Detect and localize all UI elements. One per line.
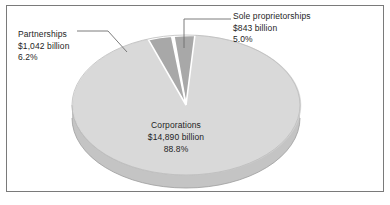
callout-partnerships: Partnerships $1,042 billion 6.2% xyxy=(18,29,70,64)
callout-corporations-percent: 88.8% xyxy=(120,143,232,155)
callout-sole-percent: 5.0% xyxy=(233,34,311,46)
callout-corporations: Corporations $14,890 billion 88.8% xyxy=(120,119,232,155)
callout-sole-title: Sole proprietorships xyxy=(233,11,311,23)
callout-corporations-title: Corporations xyxy=(120,119,232,131)
callout-sole-proprietorships: Sole proprietorships $843 billion 5.0% xyxy=(233,11,311,46)
pie-chart-figure: Sole proprietorships $843 billion 5.0% P… xyxy=(0,0,390,205)
callout-sole-value: $843 billion xyxy=(233,23,311,35)
callout-partnerships-percent: 6.2% xyxy=(18,52,70,64)
callout-corporations-value: $14,890 billion xyxy=(120,131,232,143)
callout-partnerships-value: $1,042 billion xyxy=(18,41,70,53)
callout-partnerships-title: Partnerships xyxy=(18,29,70,41)
